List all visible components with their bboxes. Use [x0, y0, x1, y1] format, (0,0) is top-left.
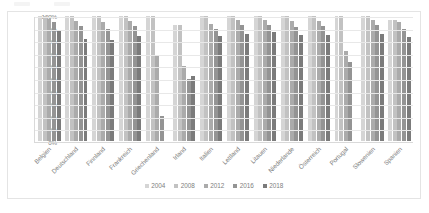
artifact-mark — [14, 2, 30, 6]
bar — [285, 16, 289, 141]
bar — [187, 79, 191, 142]
bar-group — [305, 17, 332, 141]
bar — [402, 29, 406, 142]
bar — [317, 21, 321, 141]
bar — [52, 22, 56, 141]
chart-legend: 20042008201220162018 — [8, 183, 420, 189]
bar — [128, 21, 132, 141]
bar-group — [198, 17, 225, 141]
bar — [281, 16, 285, 141]
bar — [258, 16, 262, 141]
legend-swatch-icon — [263, 184, 267, 188]
x-axis-tick-label: Irland — [172, 146, 187, 161]
bar-group — [144, 17, 171, 141]
bar — [137, 36, 141, 141]
bar — [209, 24, 213, 142]
bar — [214, 29, 218, 142]
bar-group — [251, 17, 278, 141]
x-axis-tick-label: Italien — [198, 146, 214, 162]
legend-label: 2004 — [151, 183, 165, 189]
bar — [339, 16, 343, 141]
legend-item[interactable]: 2004 — [145, 183, 166, 189]
bar-group — [117, 17, 144, 141]
bar — [272, 32, 276, 141]
bar — [119, 16, 123, 141]
bar — [106, 29, 110, 142]
bar — [43, 16, 47, 141]
bar — [321, 26, 325, 141]
bar — [57, 31, 61, 141]
bar — [97, 16, 101, 141]
bar — [245, 34, 249, 142]
artifact-mark — [54, 2, 70, 6]
legend-item[interactable]: 2012 — [204, 183, 225, 189]
gridline — [35, 30, 413, 31]
bar — [200, 16, 204, 141]
legend-item[interactable]: 2018 — [263, 183, 284, 189]
legend-label: 2016 — [240, 183, 254, 189]
bar — [344, 51, 348, 141]
x-axis-tick-label: Portugal — [328, 146, 349, 167]
bar — [312, 16, 316, 141]
plot-wrapper: 100%90%80%70%60%50%40%30%20%10%0% — [34, 17, 413, 143]
bar — [335, 16, 339, 141]
bar — [227, 16, 231, 141]
bar — [124, 16, 128, 141]
bar — [155, 56, 159, 141]
bar-group — [224, 17, 251, 141]
bar — [380, 34, 384, 142]
bar — [74, 21, 78, 141]
bar — [204, 16, 208, 141]
bar — [348, 62, 352, 141]
legend-swatch-icon — [233, 184, 237, 188]
legend-label: 2008 — [181, 183, 195, 189]
bar-group — [359, 17, 386, 141]
bar-group — [90, 17, 117, 141]
bar — [79, 26, 83, 141]
legend-swatch-icon — [174, 184, 178, 188]
bar — [92, 16, 96, 141]
gridline — [35, 130, 413, 131]
bar-group — [278, 17, 305, 141]
bar — [70, 16, 74, 141]
x-axis-tick-label: Spanien — [382, 146, 403, 167]
gridline — [35, 17, 413, 18]
bar-group — [36, 17, 63, 141]
bar-group — [63, 17, 90, 141]
bar-group — [386, 17, 413, 141]
bar — [299, 35, 303, 141]
chart-frame: 100%90%80%70%60%50%40%30%20%10%0% Belgie… — [7, 11, 421, 199]
gridline — [35, 80, 413, 81]
bar — [38, 16, 42, 141]
bar — [254, 16, 258, 141]
bar — [133, 26, 137, 141]
bar — [361, 16, 365, 141]
bar — [397, 22, 401, 141]
legend-item[interactable]: 2008 — [174, 183, 195, 189]
top-artifact-marks — [14, 2, 134, 9]
bar — [231, 16, 235, 141]
gridline — [35, 42, 413, 43]
bar — [407, 37, 411, 141]
bar — [146, 16, 150, 141]
gridline — [35, 55, 413, 56]
bar-groups — [36, 17, 413, 141]
gridline — [35, 93, 413, 94]
legend-label: 2018 — [269, 183, 283, 189]
bar-chart: 100%90%80%70%60%50%40%30%20%10%0% Belgie… — [0, 0, 429, 213]
bar — [308, 16, 312, 141]
bar — [290, 21, 294, 141]
x-axis-tick-label: Lettland — [221, 146, 241, 166]
bar — [218, 36, 222, 141]
bar — [294, 27, 298, 141]
bar — [65, 16, 69, 141]
bar — [366, 16, 370, 141]
plot-area — [34, 17, 413, 143]
x-axis-tick-label: Litauen — [249, 146, 268, 165]
legend-swatch-icon — [204, 184, 208, 188]
gridline — [35, 118, 413, 119]
bar — [151, 16, 155, 141]
legend-item[interactable]: 2016 — [233, 183, 254, 189]
legend-swatch-icon — [145, 184, 149, 188]
bar-group — [171, 17, 198, 141]
